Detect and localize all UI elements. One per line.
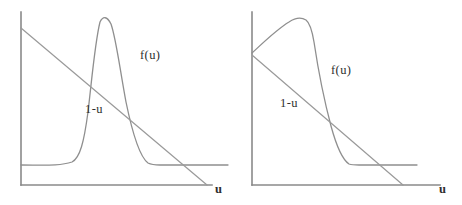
curve-fu-left bbox=[21, 18, 228, 165]
figure-two-panel-plot: f(u) 1-u u f(u) 1-u u bbox=[0, 0, 462, 205]
plot-panel-left: f(u) 1-u u bbox=[0, 0, 231, 205]
plot-panel-right: f(u) 1-u u bbox=[231, 0, 462, 205]
x-axis-label-left: u bbox=[215, 182, 222, 197]
x-axis-label-right: u bbox=[439, 182, 446, 197]
plot-canvas-left bbox=[0, 0, 231, 205]
curve-label-fu-right: f(u) bbox=[331, 63, 351, 78]
curve-fu-right bbox=[252, 18, 417, 165]
line-1-minus-u-left bbox=[21, 28, 207, 185]
line-label-1-minus-u-left: 1-u bbox=[85, 102, 103, 117]
curve-label-fu-left: f(u) bbox=[140, 48, 160, 63]
plot-canvas-right bbox=[231, 0, 462, 205]
line-label-1-minus-u-right: 1-u bbox=[280, 96, 298, 111]
line-1-minus-u-right bbox=[252, 55, 403, 185]
